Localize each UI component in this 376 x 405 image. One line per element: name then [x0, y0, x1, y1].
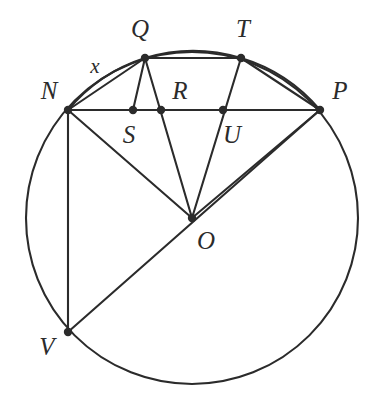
vertex-label-P: P [332, 78, 347, 103]
vertex-label-S: S [123, 122, 136, 147]
vertex-label-U: U [223, 122, 241, 147]
vertex-label-O: O [197, 228, 215, 253]
geometry-figure: N Q T P V O S R U x [0, 0, 376, 405]
vertex-dot-T [237, 54, 245, 62]
vertex-dot-Q [141, 54, 149, 62]
vertex-dot-U [219, 106, 227, 114]
vertex-label-V: V [39, 334, 54, 359]
vertex-label-R: R [172, 78, 187, 103]
geometry-canvas [0, 0, 376, 405]
vertex-dot-S [129, 106, 137, 114]
vertex-dot-O [188, 214, 196, 222]
vertex-label-Q: Q [131, 16, 149, 41]
vertex-label-N: N [41, 78, 58, 103]
arc-measure-label-x: x [90, 56, 99, 77]
vertex-dot-P [316, 106, 324, 114]
segment-NQ [68, 58, 145, 110]
vertex-dot-V [64, 328, 72, 336]
vertex-dot-N [64, 106, 72, 114]
segment-TP [241, 58, 320, 110]
vertex-label-T: T [236, 16, 250, 41]
vertex-dot-R [157, 106, 165, 114]
